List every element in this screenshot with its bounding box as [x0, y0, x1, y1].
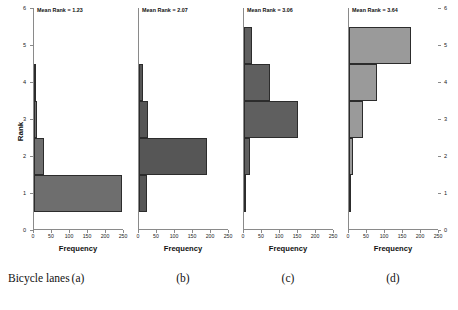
- panel-caption: (b): [176, 272, 189, 284]
- x-axis-tick-label: 0: [32, 233, 35, 239]
- histogram-bar: [349, 175, 351, 212]
- x-axis-tick-label: 150: [83, 233, 92, 239]
- plot-area: Mean Rank = 1.23: [33, 8, 123, 230]
- mean-rank-annotation: Mean Rank = 1.23: [37, 7, 83, 13]
- x-axis-ticks: 050100150200250: [138, 230, 228, 244]
- x-axis-tick-label: 100: [380, 233, 389, 239]
- bar-group: [244, 8, 333, 230]
- x-axis-tick-label: 50: [48, 233, 54, 239]
- x-axis-ticks: 050100150200250: [348, 230, 438, 244]
- x-axis-title: Frequency: [138, 244, 228, 253]
- histogram-bar: [244, 175, 246, 212]
- x-axis-tick-label: 250: [119, 233, 128, 239]
- x-axis-tick-label: 150: [293, 233, 302, 239]
- histogram-bar: [34, 64, 36, 101]
- x-axis-title: Frequency: [33, 244, 123, 253]
- x-axis-tick-label: 0: [242, 233, 245, 239]
- x-axis-tick-label: 50: [363, 233, 369, 239]
- x-axis-tick-label: 50: [258, 233, 264, 239]
- histogram-bar: [244, 64, 270, 101]
- chart-panel: Mean Rank = 3.64050100150200250Frequency: [348, 8, 438, 240]
- x-axis-tick-label: 150: [398, 233, 407, 239]
- x-axis-ticks: 050100150200250: [243, 230, 333, 244]
- caption-row: Bicycle lanes (a)(b)(c)(d): [0, 272, 458, 296]
- x-axis-tick-label: 200: [206, 233, 215, 239]
- histogram-bar: [349, 138, 353, 175]
- bar-group: [34, 8, 123, 230]
- panel-grid: Mean Rank = 1.23050100150200250Frequency…: [0, 0, 458, 250]
- panel-caption: (d): [386, 272, 399, 284]
- histogram-bar: [244, 27, 252, 64]
- histogram-bar: [34, 101, 37, 138]
- histogram-bar: [34, 138, 44, 175]
- x-axis-tick-label: 100: [275, 233, 284, 239]
- histogram-bar: [139, 175, 147, 212]
- bar-group: [139, 8, 228, 230]
- x-axis-title: Frequency: [243, 244, 333, 253]
- x-axis-tick-label: 100: [65, 233, 74, 239]
- histogram-bar: [139, 101, 148, 138]
- mean-rank-annotation: Mean Rank = 3.06: [247, 7, 293, 13]
- histogram-bar: [349, 27, 411, 64]
- chart-panel: Mean Rank = 2.07050100150200250Frequency: [138, 8, 228, 240]
- histogram-bar: [139, 138, 207, 175]
- plot-area: Mean Rank = 3.06: [243, 8, 333, 230]
- x-axis-tick-label: 250: [329, 233, 338, 239]
- x-axis-tick-label: 50: [153, 233, 159, 239]
- panel-caption: (a): [72, 272, 85, 284]
- x-axis-tick-label: 150: [188, 233, 197, 239]
- x-axis-tick-label: 0: [137, 233, 140, 239]
- histogram-bar: [349, 64, 377, 101]
- x-axis-tick-label: 200: [101, 233, 110, 239]
- mean-rank-annotation: Mean Rank = 2.07: [142, 7, 188, 13]
- histogram-bar: [244, 138, 250, 175]
- x-axis-tick-label: 200: [416, 233, 425, 239]
- x-axis-tick-label: 0: [347, 233, 350, 239]
- x-axis-tick-label: 200: [311, 233, 320, 239]
- chart-panel: Mean Rank = 1.23050100150200250Frequency: [33, 8, 123, 240]
- x-axis-tick-label: 250: [224, 233, 233, 239]
- plot-area: Mean Rank = 2.07: [138, 8, 228, 230]
- histogram-bar: [139, 64, 143, 101]
- x-axis-tick-label: 100: [170, 233, 179, 239]
- chart-panel: Mean Rank = 3.06050100150200250Frequency: [243, 8, 333, 240]
- x-axis-tick-label: 250: [434, 233, 443, 239]
- histogram-bar: [244, 101, 298, 138]
- x-axis-ticks: 050100150200250: [33, 230, 123, 244]
- plot-area: Mean Rank = 3.64: [348, 8, 438, 230]
- series-label: Bicycle lanes: [8, 272, 70, 284]
- histogram-bar: [34, 175, 122, 212]
- figure-container: Rank 0123456 0123456 Mean Rank = 1.23050…: [0, 0, 458, 310]
- bar-group: [349, 8, 438, 230]
- histogram-bar: [349, 101, 363, 138]
- x-axis-title: Frequency: [348, 244, 438, 253]
- mean-rank-annotation: Mean Rank = 3.64: [352, 7, 398, 13]
- panel-caption: (c): [282, 272, 295, 284]
